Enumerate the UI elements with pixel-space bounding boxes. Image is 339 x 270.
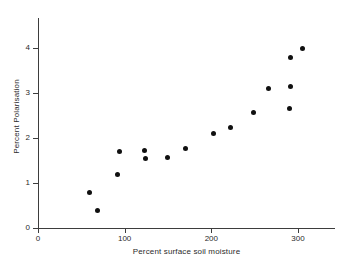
data-point [228, 125, 233, 130]
y-axis-tick [33, 93, 38, 94]
data-point [183, 146, 188, 151]
x-axis-tick [38, 228, 39, 233]
y-axis-title: Percent Polarisation [12, 57, 21, 177]
y-axis-line [38, 18, 39, 229]
x-axis-tick [298, 228, 299, 233]
data-point [87, 190, 92, 195]
y-axis-tick-label: 1 [8, 179, 30, 187]
data-point [251, 110, 256, 115]
x-axis-tick-label: 0 [23, 235, 53, 243]
y-axis-tick-label: 0 [8, 224, 30, 232]
data-point [115, 172, 120, 177]
x-axis-tick-label: 200 [196, 235, 226, 243]
x-axis-tick-label: 300 [283, 235, 313, 243]
data-point [288, 84, 293, 89]
y-axis-tick [33, 138, 38, 139]
data-point [117, 149, 122, 154]
data-point [211, 131, 216, 136]
data-point [95, 208, 100, 213]
data-point [165, 155, 170, 160]
data-point [142, 148, 147, 153]
y-axis-tick [33, 183, 38, 184]
data-point [300, 46, 305, 51]
plot-area: 012340100200300 [0, 0, 339, 270]
x-axis-tick-label: 100 [110, 235, 140, 243]
data-point [288, 55, 293, 60]
x-axis-tick [125, 228, 126, 233]
figure-scatter-plot: 012340100200300 Percent surface soil moi… [0, 0, 339, 270]
x-axis-title: Percent surface soil moisture [38, 247, 335, 256]
x-axis-line [38, 228, 335, 229]
data-point [266, 86, 271, 91]
y-axis-tick-label: 4 [8, 44, 30, 52]
x-axis-tick [211, 228, 212, 233]
y-axis-tick [33, 48, 38, 49]
data-point [287, 106, 292, 111]
data-point [143, 156, 148, 161]
